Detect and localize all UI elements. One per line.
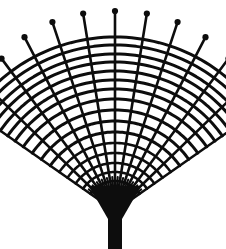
rib-tip-knob	[112, 8, 118, 14]
rib-tip-knob	[21, 34, 27, 40]
figure-canvas	[0, 0, 226, 249]
rib-tip-knob	[49, 19, 55, 25]
rib-tip-knob	[80, 10, 86, 16]
handle-shaft	[108, 218, 122, 249]
rib-tip-knob	[144, 10, 150, 16]
rib-tip-knob	[202, 34, 208, 40]
rib-tip-knob	[174, 19, 180, 25]
fan-illustration	[0, 0, 226, 249]
